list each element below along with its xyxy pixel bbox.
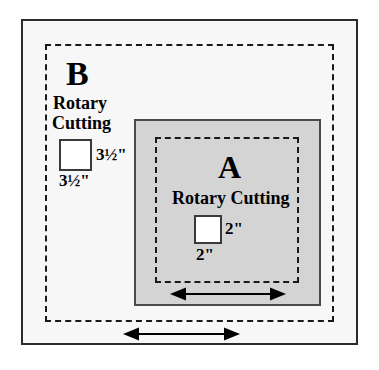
block-a-size-width-label: 2"	[196, 246, 214, 263]
block-a-width-arrow-icon	[170, 285, 286, 303]
block-b-width-arrow-icon	[123, 325, 240, 343]
block-b-letter: B	[66, 57, 89, 91]
diagram-canvas: B Rotary Cutting 3½" 3½" A Rotary Cuttin…	[0, 0, 379, 370]
block-b-square-icon	[59, 139, 92, 171]
block-b-size-width-label: 3½"	[59, 172, 90, 189]
block-a-letter: A	[218, 151, 241, 183]
block-a-size-height-label: 2"	[225, 220, 243, 237]
block-b-size-height-label: 3½"	[96, 146, 127, 163]
block-a-square-icon	[194, 215, 222, 244]
block-b-method-line2: Cutting	[52, 114, 111, 132]
block-a-method: Rotary Cutting	[172, 189, 290, 207]
block-b-method-line1: Rotary	[53, 94, 107, 112]
